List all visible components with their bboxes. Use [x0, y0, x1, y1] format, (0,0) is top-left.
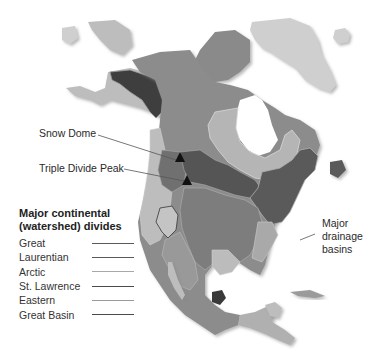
basins-leader [300, 234, 315, 240]
drainage-basins-line2: drainage [322, 230, 363, 243]
cuba [290, 290, 325, 298]
legend-label: Great Basin [19, 309, 74, 321]
legend-title: Major continental (watershed) divides [19, 207, 134, 233]
legend-item-laurentian: Laurentian [19, 250, 134, 264]
legend-label: St. Lawrence [19, 280, 80, 292]
greenland [250, 18, 336, 92]
eastern-divide-line-icon [92, 300, 134, 301]
drainage-basins-line3: basins [322, 243, 363, 256]
central-america [238, 306, 295, 345]
snow-dome-label: Snow Dome [39, 127, 96, 139]
great-basin-divide-line-icon [92, 314, 134, 315]
legend-title-line2: (watershed) divides [19, 220, 134, 233]
alaska-north-island [62, 26, 78, 44]
legend-item-arctic: Arctic [19, 265, 134, 279]
legend-title-line1: Major continental [19, 207, 134, 220]
legend-label: Great [19, 237, 45, 249]
drainage-basins-line1: Major [322, 217, 363, 230]
legend-item-great-basin: Great Basin [19, 307, 134, 321]
legend: Major continental (watershed) divides Gr… [19, 207, 134, 322]
newfoundland [330, 160, 346, 178]
legend-label: Eastern [19, 294, 55, 306]
legend-item-st-lawrence: St. Lawrence [19, 279, 134, 293]
great-divide-line-icon [92, 243, 134, 244]
arctic-divide-line-icon [92, 271, 134, 272]
legend-item-great: Great [19, 236, 134, 250]
iceland [333, 28, 350, 44]
legend-item-eastern: Eastern [19, 293, 134, 307]
laurentian-divide-line-icon [92, 257, 134, 258]
legend-label: Arctic [19, 266, 45, 278]
legend-label: Laurentian [19, 251, 69, 263]
drainage-basins-label: Major drainage basins [322, 217, 363, 256]
st-lawrence-divide-line-icon [92, 286, 134, 287]
lerma-basin [212, 290, 226, 305]
arctic-islands-west [88, 20, 132, 55]
triple-divide-peak-label: Triple Divide Peak [39, 162, 124, 174]
